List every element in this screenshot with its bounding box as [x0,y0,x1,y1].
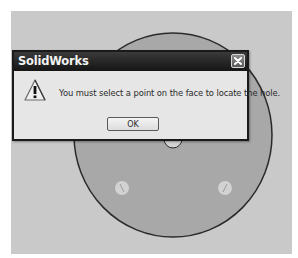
warning-icon [24,79,46,102]
close-button[interactable] [231,54,245,68]
message-dialog: SolidWorks You must select a point on th… [12,50,249,141]
dialog-titlebar[interactable]: SolidWorks [14,52,247,71]
ok-button[interactable]: OK [107,117,159,131]
right-hole[interactable] [218,181,232,195]
left-hole[interactable] [115,181,129,195]
close-icon [233,56,243,66]
dialog-message: You must select a point on the face to l… [59,88,280,98]
dialog-title: SolidWorks [18,54,89,68]
